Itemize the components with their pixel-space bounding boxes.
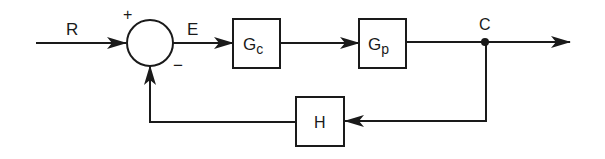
error-label: E [187,20,198,39]
minus-sign: − [173,56,183,75]
output-label: C [479,16,491,33]
summing-junction [127,20,173,66]
plus-sign: + [123,6,132,23]
plant-label-sub: p [381,41,389,57]
controller-label-sub: c [256,41,263,57]
block-diagram: R + − E Gc Gp [0,0,605,159]
feedback-label: H [314,114,326,131]
feedback-path-to-junction [150,66,296,122]
feedback-block: H [296,97,344,146]
plant-label-main: G [368,35,381,54]
controller-label-main: G [243,35,256,54]
reference-label: R [66,20,78,39]
controller-block: Gc [233,19,280,68]
plant-block: Gp [359,19,406,68]
